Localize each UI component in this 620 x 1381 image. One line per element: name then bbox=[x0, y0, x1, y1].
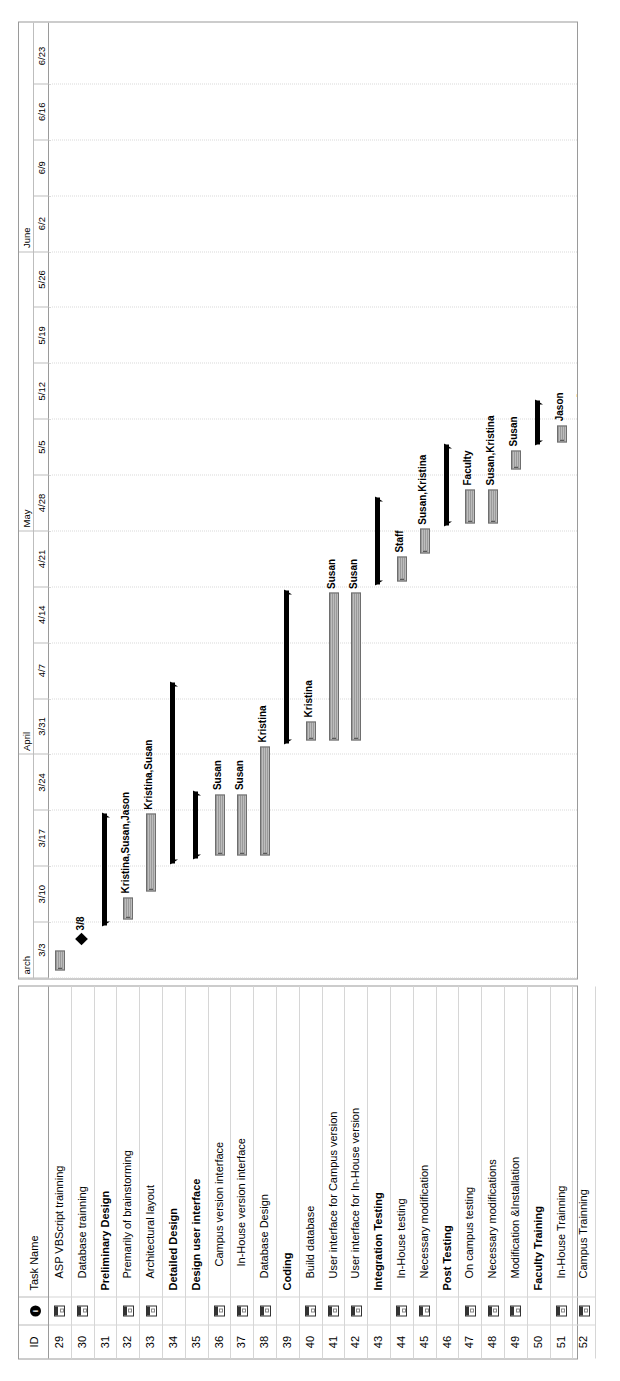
task-indicator-cell[interactable] bbox=[209, 1296, 231, 1324]
note-icon[interactable] bbox=[146, 1305, 157, 1316]
task-indicator-cell[interactable] bbox=[95, 1296, 117, 1324]
task-indicator-cell[interactable] bbox=[140, 1296, 162, 1324]
task-indicator-cell[interactable] bbox=[368, 1296, 390, 1324]
task-indicator-cell[interactable] bbox=[186, 1296, 208, 1324]
gantt-task-bar[interactable] bbox=[488, 489, 498, 523]
table-row[interactable]: 37In-House version interface bbox=[231, 986, 254, 1358]
task-indicator-cell[interactable] bbox=[414, 1296, 436, 1324]
gantt-summary-bar[interactable] bbox=[375, 497, 380, 584]
task-indicator-cell[interactable] bbox=[323, 1296, 345, 1324]
note-icon[interactable] bbox=[214, 1305, 225, 1316]
table-row[interactable]: 40Build database bbox=[300, 986, 323, 1358]
task-name-cell: In-House testing bbox=[391, 986, 413, 1296]
column-header-indicator[interactable]: i bbox=[19, 1296, 48, 1324]
note-icon[interactable] bbox=[123, 1305, 134, 1316]
gantt-milestone[interactable] bbox=[75, 932, 88, 945]
task-indicator-cell[interactable] bbox=[163, 1296, 185, 1324]
task-indicator-cell[interactable] bbox=[573, 1296, 595, 1324]
gantt-task-bar[interactable] bbox=[55, 950, 65, 970]
gantt-task-bar[interactable] bbox=[351, 592, 361, 740]
gantt-task-bar[interactable] bbox=[215, 794, 225, 855]
task-table-pane[interactable]: ID i Task Name 29ASP VBScript trainning3… bbox=[18, 985, 578, 1359]
gantt-summary-bar[interactable] bbox=[170, 682, 175, 864]
table-row[interactable]: 35Design user interface bbox=[186, 986, 209, 1358]
table-row[interactable]: 39Coding bbox=[277, 986, 300, 1358]
table-row[interactable]: 36Campus version interface bbox=[209, 986, 232, 1358]
note-icon[interactable] bbox=[419, 1305, 430, 1316]
table-row[interactable]: 38Database Design bbox=[254, 986, 277, 1358]
gantt-task-bar[interactable] bbox=[329, 592, 339, 740]
gantt-row: Kristina,Susan,Jason bbox=[117, 22, 140, 978]
task-indicator-cell[interactable] bbox=[277, 1296, 299, 1324]
note-icon[interactable] bbox=[556, 1305, 567, 1316]
column-header-task-name[interactable]: Task Name bbox=[19, 986, 48, 1296]
gantt-task-bar[interactable] bbox=[420, 528, 430, 553]
task-indicator-cell[interactable] bbox=[551, 1296, 573, 1324]
timeline-week-label: 6/9 bbox=[34, 140, 49, 196]
table-row[interactable]: 31Preliminary Design bbox=[95, 986, 118, 1358]
table-row[interactable]: 50Faculty Training bbox=[528, 986, 551, 1358]
task-indicator-cell[interactable] bbox=[231, 1296, 253, 1324]
gantt-row bbox=[186, 22, 209, 978]
table-row[interactable]: 47On campus testing bbox=[459, 986, 482, 1358]
task-indicator-cell[interactable] bbox=[300, 1296, 322, 1324]
note-icon[interactable] bbox=[396, 1305, 407, 1316]
gantt-task-bar[interactable] bbox=[123, 897, 133, 919]
task-indicator-cell[interactable] bbox=[482, 1296, 504, 1324]
task-indicator-cell[interactable] bbox=[505, 1296, 527, 1324]
note-icon[interactable] bbox=[305, 1305, 316, 1316]
task-indicator-cell[interactable] bbox=[49, 1296, 71, 1324]
table-row[interactable]: 34Detailed Design bbox=[163, 986, 186, 1358]
note-icon[interactable] bbox=[351, 1305, 362, 1316]
gantt-task-bar[interactable] bbox=[465, 489, 475, 523]
note-icon[interactable] bbox=[465, 1305, 476, 1316]
note-icon[interactable] bbox=[260, 1305, 271, 1316]
task-indicator-cell[interactable] bbox=[345, 1296, 367, 1324]
gantt-task-bar[interactable] bbox=[306, 721, 316, 741]
table-row[interactable]: 52Campus Trainning bbox=[573, 986, 596, 1358]
task-indicator-cell[interactable] bbox=[72, 1296, 94, 1324]
task-indicator-cell[interactable] bbox=[117, 1296, 139, 1324]
task-id-cell: 32 bbox=[117, 1324, 139, 1358]
table-row[interactable]: 44In-House testing bbox=[391, 986, 414, 1358]
note-icon[interactable] bbox=[579, 1305, 590, 1316]
table-row[interactable]: 32Premarily of brainstorming bbox=[117, 986, 140, 1358]
gantt-task-bar[interactable] bbox=[397, 556, 407, 581]
gantt-task-bar[interactable] bbox=[237, 794, 247, 855]
task-indicator-cell[interactable] bbox=[459, 1296, 481, 1324]
table-row[interactable]: 41User interface for Campus version bbox=[323, 986, 346, 1358]
table-row[interactable]: 29ASP VBScript trainning bbox=[49, 986, 72, 1358]
gantt-summary-bar[interactable] bbox=[193, 791, 198, 858]
table-row[interactable]: 46Post Testing bbox=[437, 986, 460, 1358]
table-row[interactable]: 30Database trainning bbox=[72, 986, 95, 1358]
gantt-task-bar[interactable] bbox=[557, 425, 567, 442]
column-header-id[interactable]: ID bbox=[19, 1324, 48, 1358]
note-icon[interactable] bbox=[488, 1305, 499, 1316]
gantt-summary-bar[interactable] bbox=[444, 444, 449, 525]
gantt-task-bar[interactable] bbox=[146, 813, 156, 891]
table-row[interactable]: 49Modification &Installation bbox=[505, 986, 528, 1358]
note-icon[interactable] bbox=[237, 1305, 248, 1316]
gantt-summary-bar[interactable] bbox=[102, 813, 107, 925]
gantt-task-bar[interactable] bbox=[511, 450, 521, 470]
table-row[interactable]: 43Integration Testing bbox=[368, 986, 391, 1358]
task-indicator-cell[interactable] bbox=[528, 1296, 550, 1324]
task-id-cell: 36 bbox=[209, 1324, 231, 1358]
note-icon[interactable] bbox=[510, 1305, 521, 1316]
note-icon[interactable] bbox=[328, 1305, 339, 1316]
gantt-summary-bar[interactable] bbox=[535, 400, 540, 445]
table-row[interactable]: 42User interface for In-House version bbox=[345, 986, 368, 1358]
table-row[interactable]: 45Necessary modification bbox=[414, 986, 437, 1358]
task-indicator-cell[interactable] bbox=[391, 1296, 413, 1324]
table-row[interactable]: 51In-House Trainning bbox=[551, 986, 574, 1358]
note-icon[interactable] bbox=[54, 1305, 65, 1316]
task-indicator-cell[interactable] bbox=[437, 1296, 459, 1324]
gantt-chart-pane[interactable]: archAprilMayJune 3/33/103/173/243/314/74… bbox=[18, 21, 578, 979]
task-name-cell: Campus Trainning bbox=[573, 986, 595, 1296]
task-indicator-cell[interactable] bbox=[254, 1296, 276, 1324]
table-row[interactable]: 33Architectural layout bbox=[140, 986, 163, 1358]
table-row[interactable]: 48Necessary modifications bbox=[482, 986, 505, 1358]
note-icon[interactable] bbox=[77, 1305, 88, 1316]
gantt-task-bar[interactable] bbox=[260, 746, 270, 855]
gantt-summary-bar[interactable] bbox=[284, 590, 289, 744]
